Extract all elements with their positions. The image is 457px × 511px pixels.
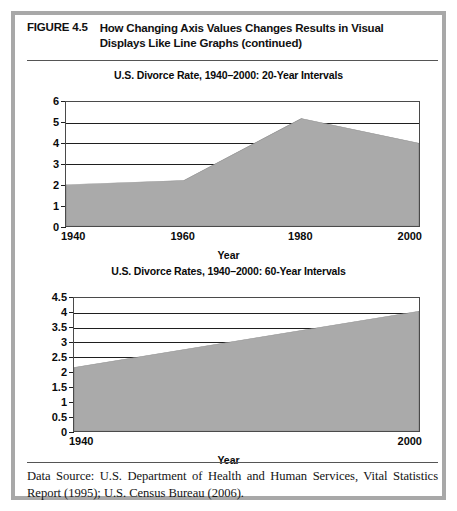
chart-2-y-tick-label: 1.5: [52, 382, 67, 393]
chart-1-y-axis-labels: 0123456: [33, 101, 59, 227]
chart-1-x-tick-label: 1940: [61, 231, 85, 242]
chart-2-y-tick-label: 4: [61, 307, 67, 318]
figure-caption-text: How Changing Axis Values Changes Results…: [100, 21, 384, 51]
figure-frame: FIGURE 4.5 How Changing Axis Values Chan…: [11, 11, 446, 500]
chart-2-x-axis-title: Year: [15, 454, 442, 466]
chart-2-area-series: [74, 298, 419, 431]
chart-1-y-tick-label: 3: [53, 159, 59, 170]
chart-2-y-tick-label: 1: [61, 397, 67, 408]
chart-2-y-tick-label: 4.5: [52, 292, 67, 303]
chart-2-y-tick-label: 3: [61, 337, 67, 348]
chart-divorce-rate-20-year: U.S. Divorce Rate, 1940–2000: 20-Year In…: [15, 67, 442, 257]
chart-2-title: U.S. Divorce Rates, 1940–2000: 60-Year I…: [15, 265, 442, 277]
chart-1-y-tick-label: 1: [53, 201, 59, 212]
chart-1-x-axis-title: Year: [15, 249, 442, 261]
chart-1-title: U.S. Divorce Rate, 1940–2000: 20-Year In…: [15, 69, 442, 81]
chart-1-y-tick-label: 6: [53, 96, 59, 107]
source-note: Data Source: U.S. Department of Health a…: [27, 468, 438, 502]
chart-2-plot-area: [73, 297, 420, 432]
chart-1-x-axis-labels: 1940196019802000: [15, 231, 442, 247]
source-divider: [27, 462, 438, 463]
figure-caption-line-1: How Changing Axis Values Changes Results…: [100, 22, 384, 34]
chart-2-y-tick-label: 2: [61, 367, 67, 378]
chart-1-x-tick-label: 1980: [288, 231, 312, 242]
chart-1-y-tick-label: 4: [53, 138, 59, 149]
figure-caption-line-2: Displays Like Line Graphs (continued): [100, 37, 302, 49]
chart-2-y-tick-mark: [69, 432, 74, 433]
chart-2-x-tick-label: 1940: [69, 436, 93, 447]
chart-2-x-axis-labels: 19402000: [15, 436, 442, 452]
chart-2-x-tick-label: 2000: [398, 436, 422, 447]
chart-1-plot-area: [65, 101, 420, 227]
chart-2-y-tick-label: 0.5: [52, 412, 67, 423]
chart-2-y-tick-label: 3.5: [52, 322, 67, 333]
chart-divorce-rate-60-year: U.S. Divorce Rates, 1940–2000: 60-Year I…: [15, 263, 442, 463]
chart-2-y-axis-labels: 00.511.522.533.544.5: [33, 297, 67, 432]
chart-1-x-tick-label: 2000: [398, 231, 422, 242]
figure-number: FIGURE 4.5: [27, 21, 100, 33]
chart-1-x-tick-label: 1960: [170, 231, 194, 242]
chart-1-y-tick-label: 5: [53, 117, 59, 128]
caption-divider: [27, 60, 438, 61]
figure-body: FIGURE 4.5 How Changing Axis Values Chan…: [15, 15, 442, 496]
chart-2-y-tick-label: 2.5: [52, 352, 67, 363]
chart-1-y-tick-label: 2: [53, 180, 59, 191]
chart-1-y-tick-mark: [61, 227, 66, 228]
chart-1-area-series: [66, 102, 419, 226]
figure-caption: FIGURE 4.5 How Changing Axis Values Chan…: [15, 15, 442, 56]
